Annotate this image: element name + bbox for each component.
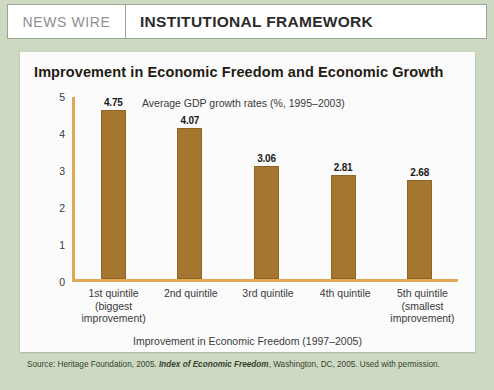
bar-cell: 3.06 — [228, 97, 305, 279]
category-label: 4th quintile — [307, 287, 384, 325]
y-tick-label: 3 — [45, 165, 65, 177]
y-tick-label: 0 — [45, 276, 65, 288]
x-axis-title: Improvement in Economic Freedom (1997–20… — [20, 335, 475, 347]
category-label: 2nd quintile — [152, 287, 229, 325]
header-title: INSTITUTIONAL FRAMEWORK — [126, 5, 486, 38]
category-label: 5th quintile(smallestimprovement) — [384, 287, 461, 325]
category-label-line: (biggest — [75, 300, 152, 313]
bar-cell: 2.68 — [381, 97, 458, 279]
bar-cell: 2.81 — [305, 97, 382, 279]
bar — [101, 110, 126, 279]
bar-value-label: 2.81 — [334, 162, 353, 173]
category-label-line: 5th quintile — [384, 287, 461, 300]
news-wire-figure: NEWS WIRE INSTITUTIONAL FRAMEWORK Improv… — [0, 0, 494, 390]
y-tick-label: 5 — [45, 91, 65, 103]
category-label-line: 1st quintile — [75, 287, 152, 300]
x-axis-line — [72, 279, 458, 282]
y-tick-label: 2 — [45, 202, 65, 214]
category-label-line: 3rd quintile — [229, 287, 306, 300]
bar — [331, 175, 356, 279]
chart-title: Improvement in Economic Freedom and Econ… — [34, 64, 444, 80]
source-italic-title: Index of Economic Freedom — [159, 360, 269, 369]
y-tick-label: 1 — [45, 239, 65, 251]
bar — [254, 166, 279, 279]
bar — [177, 128, 202, 279]
bar-value-label: 2.68 — [410, 167, 429, 178]
category-label: 3rd quintile — [229, 287, 306, 325]
source-prefix: Source: Heritage Foundation, 2005. — [27, 360, 159, 369]
category-label-line: improvement) — [384, 312, 461, 325]
figure-frame: Improvement in Economic Freedom and Econ… — [7, 45, 487, 384]
category-label-line: (smallest — [384, 300, 461, 313]
category-label-line: 2nd quintile — [152, 287, 229, 300]
bar-value-label: 4.75 — [104, 97, 123, 108]
category-label: 1st quintile(biggestimprovement) — [75, 287, 152, 325]
header-bar: NEWS WIRE INSTITUTIONAL FRAMEWORK — [7, 4, 487, 39]
y-tick-label: 4 — [45, 128, 65, 140]
bar-cell: 4.07 — [152, 97, 229, 279]
category-label-line: improvement) — [75, 312, 152, 325]
header-kicker: NEWS WIRE — [8, 5, 126, 38]
source-suffix: , Washington, DC, 2005. Used with permis… — [269, 360, 440, 369]
bar — [407, 180, 432, 279]
source-note: Source: Heritage Foundation, 2005. Index… — [27, 360, 440, 369]
bar-value-label: 4.07 — [181, 115, 200, 126]
bar-value-label: 3.06 — [257, 153, 276, 164]
chart-panel: Improvement in Economic Freedom and Econ… — [20, 52, 475, 352]
bar-series: 4.754.073.062.812.68 — [75, 97, 458, 279]
category-label-line: 4th quintile — [307, 287, 384, 300]
plot-area: 543210 4.754.073.062.812.68 — [72, 97, 458, 282]
x-axis-category-labels: 1st quintile(biggestimprovement)2nd quin… — [75, 287, 461, 325]
bar-cell: 4.75 — [75, 97, 152, 279]
